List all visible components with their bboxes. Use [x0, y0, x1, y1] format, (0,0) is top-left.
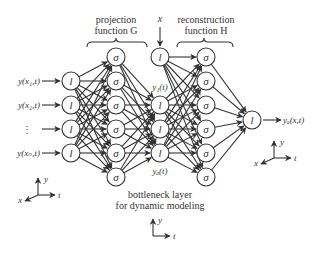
input-node: l: [62, 120, 80, 138]
output-label: yₐ(x,t): [282, 115, 304, 125]
reconstruction-sigmoid-node: σ: [197, 96, 215, 114]
reconstruction-sigmoid-node: σ: [197, 144, 215, 162]
bottleneck-purpose-label: for dynamic modeling: [116, 200, 205, 211]
reconstruction-brace: [177, 38, 233, 47]
input-arrows: [42, 81, 60, 153]
svg-text:l: l: [69, 75, 72, 87]
projection-sigmoid-node: σ: [107, 168, 125, 186]
svg-text:l: l: [158, 147, 161, 159]
connection-arrow: [212, 128, 246, 170]
connection-arrow: [124, 85, 151, 100]
connection-arrow: [215, 108, 243, 117]
svg-text:σ: σ: [203, 171, 209, 183]
reconstruction-sigmoid-node: σ: [197, 48, 215, 66]
svg-text:x: x: [17, 195, 22, 205]
bottleneck-node: l: [151, 144, 169, 162]
bottleneck-node: l: [151, 120, 169, 138]
svg-text:l: l: [158, 123, 161, 135]
svg-text:σ: σ: [113, 51, 119, 63]
projection-sigmoid-node: σ: [107, 144, 125, 162]
output-node: l: [243, 111, 261, 129]
projection-sigmoid-node: σ: [107, 48, 125, 66]
connection-arrow: [211, 64, 246, 112]
bottleneck-node: l: [151, 96, 169, 114]
connection-arrow: [76, 65, 111, 121]
bottleneck-node: l: [151, 48, 169, 66]
svg-text:σ: σ: [113, 171, 119, 183]
svg-text:σ: σ: [113, 99, 119, 111]
svg-text:σ: σ: [203, 147, 209, 159]
connection-arrow: [168, 61, 197, 76]
svg-text:l: l: [69, 147, 72, 159]
projection-sigmoid-node: σ: [107, 72, 125, 90]
input-node: l: [62, 144, 80, 162]
input-node: l: [62, 72, 80, 90]
connection-arrow: [213, 126, 244, 148]
connection-arrow: [124, 158, 151, 173]
projection-sigmoid-node: σ: [107, 120, 125, 138]
svg-text:σ: σ: [113, 147, 119, 159]
autoencoder-diagram: projection function G reconstruction fun…: [0, 0, 315, 257]
input-ellipsis: ⋮: [22, 124, 32, 135]
svg-text:σ: σ: [203, 75, 209, 87]
connection-arrow: [79, 157, 107, 172]
svg-text:l: l: [69, 99, 72, 111]
svg-text:t: t: [294, 153, 297, 163]
projection-label: projection: [96, 14, 137, 25]
svg-text:t: t: [58, 190, 61, 200]
reconstruction-label: reconstruction: [177, 14, 234, 25]
reconstruction-sigmoid-node: σ: [197, 120, 215, 138]
right-axes: y t x: [253, 137, 297, 168]
svg-text:x: x: [253, 158, 258, 168]
svg-text:σ: σ: [203, 51, 209, 63]
svg-text:y: y: [43, 174, 48, 184]
svg-text:σ: σ: [203, 99, 209, 111]
svg-text:l: l: [158, 51, 161, 63]
svg-text:σ: σ: [113, 75, 119, 87]
input-node: l: [62, 96, 80, 114]
svg-text:t: t: [173, 231, 176, 241]
connection-arrow: [215, 122, 242, 127]
input-label-2: y(x₂,t): [17, 100, 40, 110]
connection-arrow: [165, 89, 201, 145]
svg-text:l: l: [69, 123, 72, 135]
connection-arrow: [79, 62, 107, 77]
reconstruction-sigmoid-node: σ: [197, 72, 215, 90]
svg-text:y: y: [157, 215, 162, 225]
projection-brace: [87, 38, 147, 47]
x-input-label: x: [157, 13, 163, 24]
svg-text:σ: σ: [113, 123, 119, 135]
connection-arrow: [168, 157, 197, 172]
svg-text:σ: σ: [203, 123, 209, 135]
svg-text:l: l: [158, 99, 161, 111]
svg-text:l: l: [250, 114, 253, 126]
input-label-n: y(xₙ,t): [16, 148, 40, 158]
connection-arrow: [213, 87, 245, 114]
bottleneck-label: bottleneck layer: [128, 189, 193, 200]
reconstruction-sigmoid-node: σ: [197, 168, 215, 186]
projection-sigmoid-node: σ: [107, 96, 125, 114]
projection-function-label: function G: [94, 25, 137, 36]
yd-label: yₐ(t): [151, 166, 167, 176]
input-label-1: y(x₁,t): [17, 76, 40, 86]
bottom-axes: y t: [153, 215, 176, 241]
svg-text:y: y: [279, 137, 284, 147]
y1-label: y₁(t): [151, 82, 168, 92]
reconstruction-function-label: function H: [184, 25, 227, 36]
left-axes: y t x: [17, 174, 61, 205]
